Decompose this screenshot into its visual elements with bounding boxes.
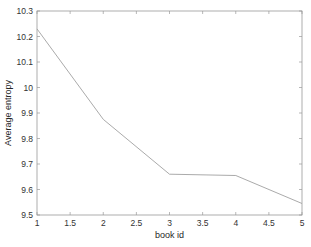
x-tick-label: 4.5 <box>263 218 275 228</box>
y-tick-label: 9.7 <box>21 159 33 169</box>
plot-area <box>37 11 302 215</box>
y-axis-label: Average entropy <box>3 80 13 146</box>
x-tick-label: 2 <box>101 218 106 228</box>
y-tick-label: 10.2 <box>16 32 33 42</box>
x-axis-label: book id <box>155 230 184 240</box>
x-tick-label: 2.5 <box>130 218 142 228</box>
y-tick-label: 10.3 <box>16 6 33 16</box>
x-tick-label: 1.5 <box>64 218 76 228</box>
x-tick-label: 3.5 <box>197 218 209 228</box>
y-tick-label: 9.5 <box>21 210 33 220</box>
y-tick-label: 9.6 <box>21 185 33 195</box>
y-tick-label: 10 <box>24 83 34 93</box>
x-tick-label: 1 <box>35 218 40 228</box>
x-tick-label: 5 <box>300 218 305 228</box>
y-tick-label: 10.1 <box>16 57 33 67</box>
y-tick-label: 9.8 <box>21 134 33 144</box>
x-tick-label: 3 <box>167 218 172 228</box>
x-tick-label: 4 <box>233 218 238 228</box>
line-chart: 9.59.69.79.89.91010.110.210.3 11.522.533… <box>0 0 311 247</box>
y-tick-label: 9.9 <box>21 108 33 118</box>
